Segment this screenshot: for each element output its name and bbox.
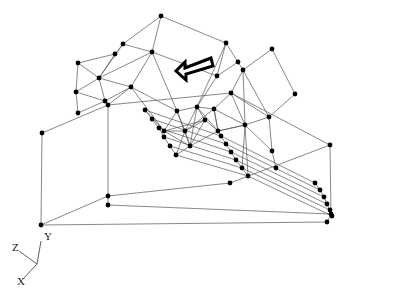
mesh-node [270, 149, 275, 154]
mesh-edge [226, 43, 238, 62]
mesh-edge [41, 133, 42, 225]
mesh-edge [245, 117, 269, 125]
mesh-edge [76, 92, 105, 101]
x-axis-label: X [17, 275, 25, 287]
mesh-node [330, 214, 335, 219]
x-axis-line [23, 264, 37, 279]
mesh-node [150, 117, 155, 122]
mesh-edge [76, 78, 99, 92]
mesh-node [74, 90, 79, 95]
mesh-edge [177, 107, 197, 111]
mesh-node [183, 129, 188, 134]
mesh-node [162, 129, 167, 134]
mesh-edge [218, 125, 245, 131]
mesh-edge [243, 49, 272, 70]
mesh-node [159, 14, 164, 19]
mesh-node [322, 195, 327, 200]
mesh-node [121, 42, 126, 47]
y-axis-line [37, 241, 41, 264]
mesh-edge [242, 168, 330, 210]
mesh-node [325, 202, 330, 207]
mesh-node [113, 52, 118, 57]
mesh-node [240, 166, 245, 171]
mesh-edge [131, 87, 164, 131]
mesh-edge [176, 146, 190, 155]
mesh-edge [41, 222, 327, 225]
mesh-node [76, 111, 81, 116]
mesh-node [267, 115, 272, 120]
mesh-node [243, 123, 248, 128]
mesh-edge [330, 145, 331, 214]
mesh-node [188, 144, 193, 149]
mesh-node [293, 92, 298, 97]
mesh-edge [197, 107, 214, 109]
mesh-node [143, 108, 148, 113]
mesh-edge [243, 70, 245, 125]
mesh-node [174, 153, 179, 158]
outer-bounding-box [41, 93, 331, 225]
mesh-node [168, 144, 173, 149]
mesh-edge [41, 196, 108, 225]
mesh-edge [108, 93, 231, 105]
mesh-edge [78, 63, 99, 78]
mesh-node [229, 91, 234, 96]
mesh-node [325, 220, 330, 225]
mesh-edge [78, 101, 105, 113]
mesh-node [229, 150, 234, 155]
mesh-edge [272, 49, 295, 94]
mesh-node [234, 158, 239, 163]
mesh-node [224, 41, 229, 46]
mesh-edge [231, 93, 269, 117]
mesh-node [39, 223, 44, 228]
mesh-edge [197, 43, 226, 107]
mesh-node [157, 126, 162, 131]
mesh-node [76, 61, 81, 66]
mesh-node [106, 203, 111, 208]
mesh-node [195, 105, 200, 110]
mesh-edge [243, 70, 269, 117]
mesh-edge [185, 109, 214, 131]
mesh-node [318, 188, 323, 193]
mesh-edge [231, 70, 243, 93]
mesh-node [241, 68, 246, 73]
mesh-node [212, 107, 217, 112]
mesh-edge [99, 78, 131, 87]
load-direction-arrow [176, 58, 213, 80]
mesh-node [103, 99, 108, 104]
mesh-edge [105, 87, 131, 101]
mesh-node [162, 135, 167, 140]
mesh-edge [78, 54, 115, 63]
z-axis-label: Z [12, 241, 19, 253]
mesh-edge [42, 105, 108, 133]
mesh-node [129, 85, 134, 90]
mesh-node [150, 50, 155, 55]
mesh-node [106, 194, 111, 199]
mesh-node [313, 181, 318, 186]
mesh-edges [41, 16, 332, 225]
nested-longitudinal-rails [145, 110, 332, 216]
mesh-edge [214, 93, 231, 109]
mesh-edge [272, 151, 276, 168]
mesh-edge [76, 63, 78, 92]
mesh-edge [108, 183, 230, 196]
mesh-node [274, 166, 279, 171]
mesh-node [270, 47, 275, 52]
mesh-edge [269, 117, 272, 151]
mesh-edge [248, 176, 332, 216]
mesh-node [328, 208, 333, 213]
mesh-edge [99, 78, 105, 101]
mesh-node [175, 109, 180, 114]
mesh-edge [269, 94, 295, 117]
mesh-node [224, 142, 229, 147]
mesh-node [236, 60, 241, 65]
mesh-edge [152, 52, 177, 111]
wireframe-figure: XYZ [0, 0, 398, 304]
mesh-node [97, 76, 102, 81]
mesh-edge [123, 44, 152, 52]
mesh-edge [108, 205, 331, 214]
mesh-edge [161, 16, 226, 43]
mesh-node [203, 118, 208, 123]
mesh-node [328, 143, 333, 148]
mesh-edge [245, 125, 248, 176]
mesh-node [246, 174, 251, 179]
